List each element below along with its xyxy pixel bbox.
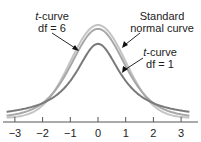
label-t-curve-df1: t-curve df = 1 — [140, 46, 180, 70]
label-standard-normal-curve: Standard normal curve — [124, 10, 200, 34]
label-t6-line2: df = 6 — [33, 22, 71, 34]
x-tick-label: 3 — [178, 127, 184, 139]
x-axis-ticks: −3−2−10123 — [9, 117, 185, 139]
x-tick-label: 1 — [123, 127, 129, 139]
arrow-t6 — [52, 33, 75, 48]
x-tick-label: −1 — [64, 127, 77, 139]
label-t-curve-df6: t-curve df = 6 — [33, 10, 71, 34]
label-normal-line1: Standard — [124, 10, 200, 22]
arrow-normal — [126, 33, 140, 44]
curve-standard-normal-curve — [7, 25, 190, 118]
label-t1-line2: df = 1 — [140, 58, 180, 70]
label-t6-line1: -curve — [38, 10, 69, 22]
annotation-arrows — [52, 33, 143, 73]
x-tick-label: 2 — [150, 127, 156, 139]
label-normal-line2: normal curve — [124, 22, 200, 34]
label-t1-line1: -curve — [146, 46, 177, 58]
curve-t-curve-df-6 — [7, 29, 190, 116]
x-tick-label: −2 — [36, 127, 49, 139]
x-tick-label: −3 — [9, 127, 22, 139]
x-tick-label: 0 — [95, 127, 101, 139]
curves — [7, 25, 190, 118]
arrow-head-normal — [122, 41, 128, 48]
